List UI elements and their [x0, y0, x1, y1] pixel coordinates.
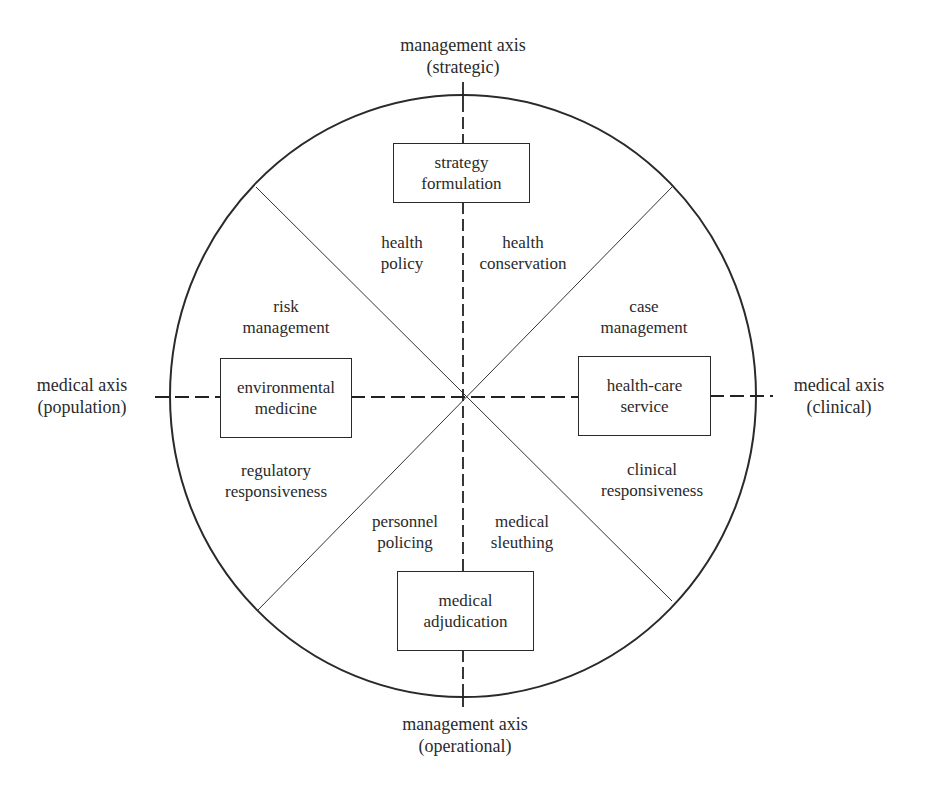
box-strategy-formulation: strategyformulation [393, 143, 530, 203]
sector-label-line: management [601, 317, 688, 338]
sector-label-line: management [243, 317, 330, 338]
axis-label-medical-clinical: medical axis (clinical) [794, 374, 884, 418]
sector-label-line: responsiveness [225, 481, 327, 502]
sector-label-line: conservation [480, 253, 567, 274]
box-label-line: formulation [421, 173, 501, 194]
sector-label-line: case [601, 296, 688, 317]
box-medical-adjudication: medicaladjudication [397, 571, 534, 651]
sector-label-regulatory-responsiveness: regulatory responsiveness [225, 460, 327, 502]
sector-label-case-management: case management [601, 296, 688, 338]
sector-label-line: health [381, 232, 424, 253]
box-health-care-service: health-careservice [578, 356, 711, 436]
axis-label-line: management axis [400, 34, 525, 56]
axis-label-medical-population: medical axis (population) [37, 374, 127, 418]
sector-label-line: clinical [601, 459, 703, 480]
sector-label-medical-sleuthing: medical sleuthing [491, 511, 553, 553]
axis-label-line: (strategic) [400, 56, 525, 78]
box-label-line: environmental [237, 377, 335, 398]
axis-label-line: management axis [402, 713, 527, 735]
sector-label-line: personnel [372, 511, 438, 532]
box-label-line: medicine [237, 398, 335, 419]
axis-label-management-operational: management axis (operational) [402, 713, 527, 757]
sector-label-health-conservation: health conservation [480, 232, 567, 274]
box-label-line: health-care [607, 375, 683, 396]
sector-label-personnel-policing: personnel policing [372, 511, 438, 553]
sector-label-line: policy [381, 253, 424, 274]
box-environmental-medicine: environmentalmedicine [220, 358, 352, 438]
sector-label-line: policing [372, 532, 438, 553]
axis-label-line: (operational) [402, 735, 527, 757]
sector-label-line: regulatory [225, 460, 327, 481]
sector-label-line: health [480, 232, 567, 253]
sector-label-clinical-responsiveness: clinical responsiveness [601, 459, 703, 501]
axis-label-line: medical axis [37, 374, 127, 396]
sector-label-health-policy: health policy [381, 232, 424, 274]
sector-label-line: medical [491, 511, 553, 532]
sector-label-line: sleuthing [491, 532, 553, 553]
axis-label-line: medical axis [794, 374, 884, 396]
sector-label-line: responsiveness [601, 480, 703, 501]
box-label-line: service [607, 396, 683, 417]
box-label-line: medical [423, 590, 507, 611]
sector-label-risk-management: risk management [243, 296, 330, 338]
box-label-line: adjudication [423, 611, 507, 632]
diagram-lines [0, 0, 926, 797]
sector-label-line: risk [243, 296, 330, 317]
axis-label-management-strategic: management axis (strategic) [400, 34, 525, 78]
axis-label-line: (population) [37, 396, 127, 418]
axis-label-line: (clinical) [794, 396, 884, 418]
box-label-line: strategy [421, 152, 501, 173]
